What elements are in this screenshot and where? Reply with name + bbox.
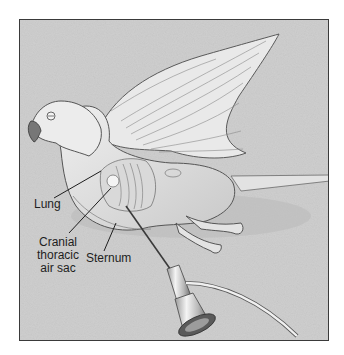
illustration-frame xyxy=(19,19,329,341)
label-cranial-thoracic-air-sac: Cranial thoracic air sac xyxy=(28,236,88,275)
label-sternum: Sternum xyxy=(86,252,131,265)
bird-illustration xyxy=(20,20,329,341)
label-lung: Lung xyxy=(34,198,61,211)
label-line-3: air sac xyxy=(28,262,88,275)
air-sac xyxy=(107,175,119,187)
